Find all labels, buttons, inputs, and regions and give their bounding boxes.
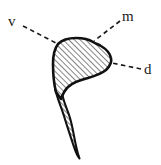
- anatomical-drawing: [0, 0, 161, 165]
- label-m: m: [122, 9, 134, 24]
- label-v: v: [8, 14, 16, 29]
- leader-line-m: [94, 21, 120, 41]
- leader-line-v: [23, 26, 58, 44]
- figure-canvas: v m d: [0, 0, 161, 165]
- leader-line-d: [112, 63, 141, 69]
- hatched-body: [53, 38, 111, 99]
- label-d: d: [144, 62, 152, 77]
